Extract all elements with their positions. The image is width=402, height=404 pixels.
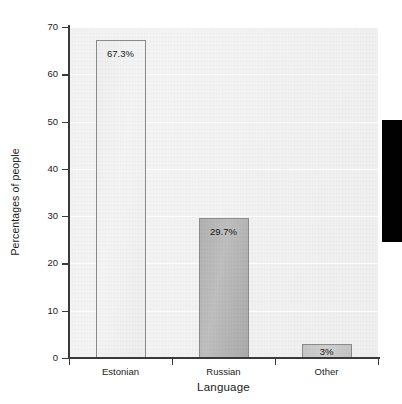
x-tick-mark-2 — [275, 358, 276, 365]
plot-area: 67.3%29.7%3% — [69, 27, 378, 358]
bar-russian: 29.7% — [199, 218, 249, 358]
y-axis-title: Percentages of people — [26, 0, 52, 404]
x-tick-mark-1 — [172, 358, 173, 365]
x-tick-mark-3 — [378, 358, 379, 365]
x-axis-line — [68, 357, 380, 359]
y-tick-label-60: 60 — [14, 68, 58, 79]
gridline-70 — [69, 27, 378, 28]
x-category-label-russian: Russian — [172, 366, 275, 377]
y-tick-label-70: 70 — [14, 21, 58, 32]
bar-value-label-russian: 29.7% — [200, 226, 248, 237]
bar-estonian: 67.3% — [96, 40, 146, 358]
y-tick-label-50: 50 — [14, 116, 58, 127]
x-tick-mark-0 — [69, 358, 70, 365]
y-tick-label-10: 10 — [14, 305, 58, 316]
y-tick-label-30: 30 — [14, 210, 58, 221]
y-tick-mark-50 — [62, 122, 69, 123]
y-tick-mark-60 — [62, 74, 69, 75]
y-tick-mark-40 — [62, 169, 69, 170]
y-tick-label-40: 40 — [14, 163, 58, 174]
x-axis-title: Language — [69, 381, 378, 393]
y-tick-mark-20 — [62, 263, 69, 264]
y-tick-mark-70 — [62, 27, 69, 28]
bar-value-label-estonian: 67.3% — [97, 48, 145, 59]
y-tick-mark-30 — [62, 216, 69, 217]
x-category-label-estonian: Estonian — [69, 366, 172, 377]
bar-other: 3% — [302, 344, 352, 358]
y-tick-label-20: 20 — [14, 257, 58, 268]
y-tick-mark-0 — [62, 358, 69, 359]
bar-chart-figure: Percentages of people 67.3%29.7%3% 01020… — [0, 0, 402, 404]
x-category-label-other: Other — [275, 366, 378, 377]
bar-value-label-other: 3% — [303, 346, 351, 357]
y-tick-mark-10 — [62, 311, 69, 312]
black-scan-block-artifact — [382, 120, 402, 242]
y-tick-label-0: 0 — [14, 352, 58, 363]
